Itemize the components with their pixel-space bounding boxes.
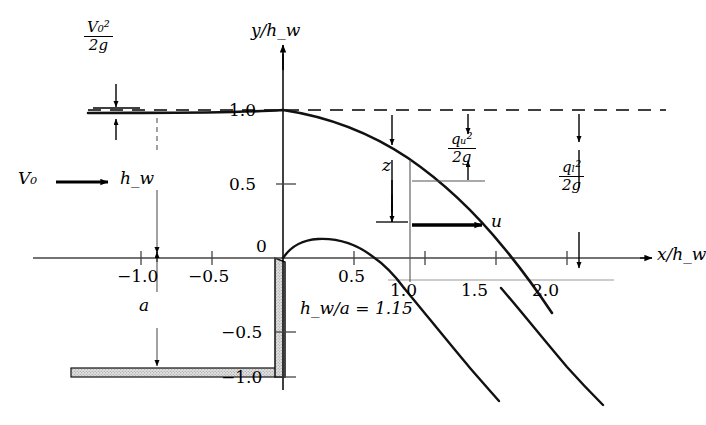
- x-tick-label-1.5: 1.5: [461, 282, 488, 299]
- x-tick-label--1.0: −1.0: [117, 268, 158, 285]
- x-tick-label-0.5: 0.5: [338, 268, 365, 285]
- x-axis-label: x/h_w: [657, 246, 706, 263]
- nappe-trajectory-outer: [501, 288, 603, 405]
- x-tick-label-1.0: 1.0: [390, 282, 417, 299]
- head-on-weir-label: h_w: [120, 170, 154, 187]
- drop-height-label: z: [382, 157, 391, 174]
- velocity-head-numerator: V₀²: [84, 20, 113, 35]
- approach-velocity-label: V₀: [18, 170, 37, 187]
- lower-nappe-head-numerator: qₗ²: [559, 160, 584, 175]
- y-tick-label--0.5: −0.5: [221, 324, 262, 341]
- jet-velocity-label: u: [491, 213, 502, 230]
- y-tick-label-0: 0: [256, 238, 267, 255]
- lower-nappe-head-denominator: 2g: [559, 178, 584, 193]
- nappe-trajectory-inner: [404, 288, 499, 401]
- velocity-head-denominator: 2g: [84, 38, 113, 53]
- y-tick-label-0.5: 0.5: [229, 176, 256, 193]
- x-tick-label--0.5: −0.5: [188, 268, 229, 285]
- y-axis-label: y/h_w: [251, 22, 300, 39]
- upper-nappe-head-label: qᵤ² 2g: [448, 132, 476, 165]
- y-tick-label--1.0: −1.0: [221, 369, 262, 386]
- y-tick-label-1.0: 1.0: [229, 102, 256, 119]
- upper-nappe-head-numerator: qᵤ²: [448, 132, 476, 147]
- velocity-head-label: V₀² 2g: [84, 20, 113, 53]
- weir-height-label: a: [139, 297, 149, 314]
- drop-height-dimension: [376, 115, 408, 222]
- upper-nappe-head-denominator: 2g: [448, 150, 476, 165]
- x-tick-label-2.0: 2.0: [532, 282, 559, 299]
- condition-label: h_w/a = 1.15: [300, 300, 413, 317]
- lower-nappe-head-label: qₗ² 2g: [559, 160, 584, 193]
